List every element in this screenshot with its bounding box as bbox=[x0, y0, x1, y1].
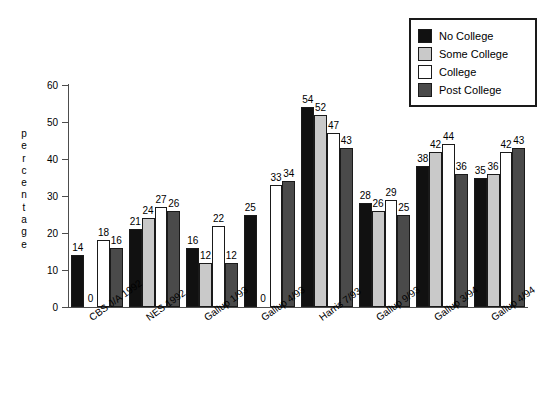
bar-value-label: 36 bbox=[456, 161, 467, 172]
y-axis-tick-label: 0 bbox=[18, 302, 58, 313]
bar-value-label: 25 bbox=[398, 202, 409, 213]
bar-group: 35364243 bbox=[474, 85, 526, 307]
bar-value-label: 0 bbox=[260, 293, 266, 304]
legend-item-label: No College bbox=[439, 29, 493, 43]
bar bbox=[442, 144, 455, 307]
bar bbox=[340, 148, 353, 307]
y-axis-tick-labels: 0102030405060 bbox=[14, 0, 58, 396]
bar bbox=[372, 211, 385, 307]
bar-value-label: 47 bbox=[328, 120, 339, 131]
legend-swatch-icon bbox=[418, 83, 432, 97]
bar bbox=[212, 226, 225, 307]
bar-value-label: 16 bbox=[187, 235, 198, 246]
y-axis-tick-label: 60 bbox=[18, 80, 58, 91]
y-axis-tick-mark bbox=[62, 122, 68, 123]
bar-group: 16122212 bbox=[186, 85, 238, 307]
bar-group: 38424436 bbox=[416, 85, 468, 307]
bar bbox=[270, 185, 283, 307]
bar-value-label: 28 bbox=[360, 190, 371, 201]
legend-item: No College bbox=[418, 27, 527, 44]
y-axis-tick-label: 20 bbox=[18, 228, 58, 239]
bar-value-label: 43 bbox=[513, 135, 524, 146]
bar-value-label: 27 bbox=[155, 194, 166, 205]
bar-value-label: 29 bbox=[385, 187, 396, 198]
legend: No CollegeSome CollegeCollegePost Colleg… bbox=[409, 18, 537, 107]
legend-item-label: College bbox=[439, 65, 476, 79]
bar-value-label: 38 bbox=[417, 153, 428, 164]
bar-value-label: 43 bbox=[341, 135, 352, 146]
bar-group: 28262925 bbox=[359, 85, 411, 307]
bar bbox=[155, 207, 168, 307]
bar bbox=[416, 166, 429, 307]
bar bbox=[385, 200, 398, 307]
legend-swatch-icon bbox=[418, 29, 432, 43]
bar bbox=[314, 115, 327, 307]
bar-value-label: 36 bbox=[488, 161, 499, 172]
y-axis-tick-mark bbox=[62, 270, 68, 271]
bar-value-label: 52 bbox=[315, 102, 326, 113]
legend-item: College bbox=[418, 63, 527, 80]
bar-value-label: 42 bbox=[430, 139, 441, 150]
bar-value-label: 26 bbox=[373, 198, 384, 209]
y-axis-tick-mark bbox=[62, 233, 68, 234]
y-axis-tick-label: 40 bbox=[18, 154, 58, 165]
bar-chart: percentage 0102030405060 140181621242726… bbox=[0, 0, 549, 396]
bar-value-label: 25 bbox=[245, 202, 256, 213]
bar bbox=[71, 255, 84, 307]
legend-item-label: Post College bbox=[439, 83, 501, 97]
bar bbox=[199, 263, 212, 307]
y-axis-tick-mark bbox=[62, 196, 68, 197]
bar-value-label: 21 bbox=[130, 216, 141, 227]
legend-item-label: Some College bbox=[439, 47, 508, 61]
legend-item: Post College bbox=[418, 81, 527, 98]
y-axis-tick-label: 30 bbox=[18, 191, 58, 202]
bar bbox=[487, 174, 500, 307]
y-axis-tick-label: 50 bbox=[18, 117, 58, 128]
bar-group: 1401816 bbox=[71, 85, 123, 307]
bar-value-label: 44 bbox=[443, 131, 454, 142]
bar bbox=[327, 133, 340, 307]
bar-value-label: 12 bbox=[200, 250, 211, 261]
bar-value-label: 12 bbox=[226, 250, 237, 261]
bar bbox=[512, 148, 525, 307]
bar bbox=[429, 152, 442, 307]
bar-value-label: 42 bbox=[500, 139, 511, 150]
bar-value-label: 54 bbox=[302, 94, 313, 105]
bar-value-label: 35 bbox=[475, 165, 486, 176]
bar-value-label: 16 bbox=[111, 235, 122, 246]
bar-value-label: 26 bbox=[168, 198, 179, 209]
bar bbox=[301, 107, 314, 307]
bar-value-label: 18 bbox=[98, 227, 109, 238]
bar-group: 2503334 bbox=[244, 85, 296, 307]
y-axis-tick-mark bbox=[62, 307, 68, 308]
plot-area: 1401816212427261612221225033345452474328… bbox=[68, 85, 528, 307]
legend-item: Some College bbox=[418, 45, 527, 62]
legend-swatch-icon bbox=[418, 47, 432, 61]
bar bbox=[186, 248, 199, 307]
bar-value-label: 33 bbox=[270, 172, 281, 183]
bar-value-label: 0 bbox=[88, 293, 94, 304]
bar-value-label: 22 bbox=[213, 213, 224, 224]
legend-swatch-icon bbox=[418, 65, 432, 79]
bar bbox=[500, 152, 513, 307]
y-axis-tick-label: 10 bbox=[18, 265, 58, 276]
bar bbox=[97, 240, 110, 307]
y-axis-tick-mark bbox=[62, 85, 68, 86]
bar-group: 21242726 bbox=[129, 85, 181, 307]
bar-value-label: 24 bbox=[143, 205, 154, 216]
bar-value-label: 14 bbox=[72, 242, 83, 253]
bar-value-label: 34 bbox=[283, 168, 294, 179]
bar-group: 54524743 bbox=[301, 85, 353, 307]
bar bbox=[455, 174, 468, 307]
y-axis-tick-mark bbox=[62, 159, 68, 160]
bar bbox=[142, 218, 155, 307]
